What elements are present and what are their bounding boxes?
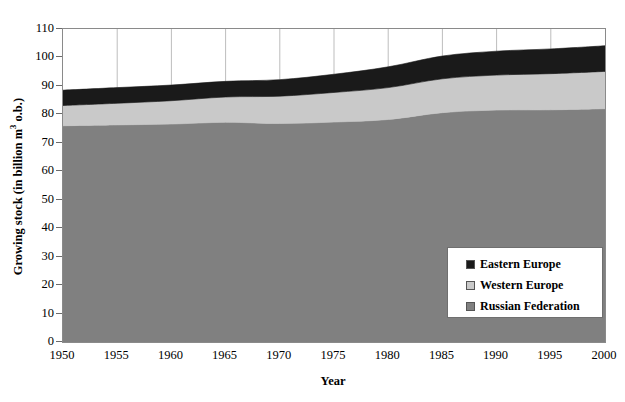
y-axis-tick-label: 70 [42,134,55,149]
y-axis-tick-label: 80 [42,106,55,121]
x-axis-tick-label: 1985 [429,348,454,363]
caption-remnant [30,0,590,5]
x-axis-tick-label: 1980 [375,348,400,363]
legend-item: Western Europe [466,276,602,295]
legend-item: Russian Federation [466,297,602,316]
x-axis-tick-label: 2000 [592,348,617,363]
x-axis-tick-label: 1950 [50,348,75,363]
y-axis-tick-label: 60 [42,163,55,178]
chart-figure: Growing stock (in billion m3 o.b.) 01020… [0,0,625,402]
x-axis-tick-label: 1990 [483,348,508,363]
x-axis-tick-label: 1955 [104,348,129,363]
x-axis-tick-label: 1975 [321,348,346,363]
legend-item-label: Eastern Europe [480,257,561,272]
legend-item-label: Russian Federation [480,299,580,314]
y-axis-tick-label: 20 [42,277,55,292]
legend-swatch-icon [466,260,475,269]
chart-legend: Eastern EuropeWestern EuropeRussian Fede… [447,247,603,318]
y-axis-ticks: 0102030405060708090100110 [0,0,62,402]
x-axis-tick-label: 1995 [537,348,562,363]
y-axis-tick-label: 90 [42,77,55,92]
y-axis-tick-label: 50 [42,191,55,206]
y-axis-tick-label: 40 [42,220,55,235]
legend-item-label: Western Europe [480,278,563,293]
legend-swatch-icon [466,281,475,290]
legend-swatch-icon [466,302,475,311]
x-axis-tick-label: 1970 [266,348,291,363]
x-axis-tick-label: 1960 [158,348,183,363]
y-axis-tick-label: 0 [48,334,54,349]
y-axis-tick-label: 10 [42,305,55,320]
x-axis-title: Year [62,374,604,389]
legend-item: Eastern Europe [466,255,602,274]
y-axis-tick-label: 100 [35,49,54,64]
y-axis-tick-label: 30 [42,248,55,263]
y-axis-tick-label: 110 [36,21,54,36]
x-axis-tick-label: 1965 [212,348,237,363]
